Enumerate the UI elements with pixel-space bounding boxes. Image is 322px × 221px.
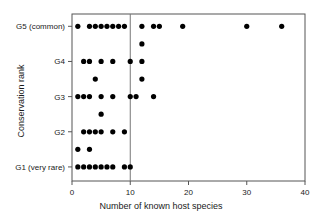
data-point [81,164,86,169]
data-point [87,24,92,29]
data-point [139,59,144,64]
data-point [110,129,115,134]
data-point [93,129,98,134]
data-point [81,94,86,99]
data-point [110,164,115,169]
y-tick-label: G4 [54,57,65,66]
data-point [133,94,138,99]
data-point [110,94,115,99]
x-tick-label: 40 [301,188,310,197]
data-point [81,129,86,134]
data-point [139,24,144,29]
x-axis-title: Number of known host species [0,201,322,211]
data-point [157,24,162,29]
y-tick-label: G2 [54,128,65,137]
data-point [75,147,80,152]
data-point [87,59,92,64]
data-point [139,41,144,46]
data-point [110,59,115,64]
x-tick-label: 10 [126,188,135,197]
plot-canvas: 010203040G1 (very rare)G2G3G4G5 (common) [0,0,322,221]
data-point [99,129,104,134]
data-point [128,59,133,64]
data-point [180,24,185,29]
y-tick-label: G5 (common) [16,22,65,31]
data-point [75,164,80,169]
data-point [116,24,121,29]
data-point [110,24,115,29]
data-point [87,147,92,152]
data-point [99,112,104,117]
data-point [87,129,92,134]
data-point [128,94,133,99]
data-point [244,24,249,29]
data-point [99,94,104,99]
data-point [104,24,109,29]
data-point [87,164,92,169]
data-point [75,24,80,29]
data-point [151,94,156,99]
data-point [139,76,144,81]
data-point [99,24,104,29]
x-tick-label: 0 [70,188,75,197]
data-point [93,24,98,29]
y-tick-label: G3 [54,93,65,102]
scatter-plot-figure: 010203040G1 (very rare)G2G3G4G5 (common)… [0,0,322,221]
y-axis-title: Conservation rank [16,36,26,166]
x-tick-label: 20 [184,188,193,197]
data-point [151,24,156,29]
data-point [104,164,109,169]
data-point [87,94,92,99]
data-point [99,59,104,64]
data-point [128,164,133,169]
data-point [122,24,127,29]
data-point [279,24,284,29]
data-point [75,94,80,99]
plot-frame [72,14,305,181]
data-point [99,164,104,169]
x-tick-label: 30 [242,188,251,197]
data-point [122,129,127,134]
data-point [122,164,127,169]
data-point [93,76,98,81]
data-point [93,164,98,169]
data-point [81,59,86,64]
